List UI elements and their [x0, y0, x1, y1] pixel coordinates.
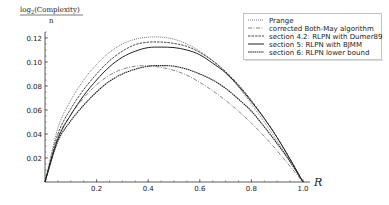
legend-entry-label: Prange	[269, 17, 293, 25]
legend-entry-label: section 5: RLPN with BJMM	[269, 41, 362, 49]
legend: Prangecorrected Both-May algorithmsectio…	[244, 14, 384, 61]
y-tick-label: 0.08	[26, 83, 42, 91]
x-tick-label: 0.4	[143, 185, 155, 193]
series-curve-3	[45, 47, 303, 182]
x-axis-label: R	[313, 176, 322, 189]
x-tick-label: 0.2	[91, 185, 102, 193]
y-tick-label: 0.04	[26, 131, 42, 139]
y-tick-label: 0.10	[26, 59, 42, 67]
legend-entry-label: corrected Both-May algorithm	[269, 25, 374, 33]
y-label-numerator: log2(Complexity)	[20, 6, 80, 15]
x-tick-label: 0.8	[246, 185, 257, 193]
line-chart: log2(Complexity) n 0.20.40.60.81.00.020.…	[0, 0, 389, 205]
legend-entry-label: section 4.2: RLPN with Dumer89	[269, 33, 382, 41]
series-curve-1	[45, 66, 303, 182]
legend-shadow	[245, 60, 383, 61]
series-curve-4	[45, 66, 303, 182]
y-tick-label: 0.02	[26, 155, 42, 163]
y-axis-label: log2(Complexity) n	[20, 6, 83, 25]
x-tick-label: 1.0	[297, 185, 308, 193]
y-label-denominator: n	[49, 17, 54, 25]
legend-entry-label: section 6: RLPN lower bound	[269, 49, 369, 57]
series-curve-2	[45, 42, 303, 182]
y-tick-label: 0.12	[26, 35, 42, 43]
y-tick-label: 0.06	[26, 107, 42, 115]
x-tick-label: 0.6	[194, 185, 206, 193]
